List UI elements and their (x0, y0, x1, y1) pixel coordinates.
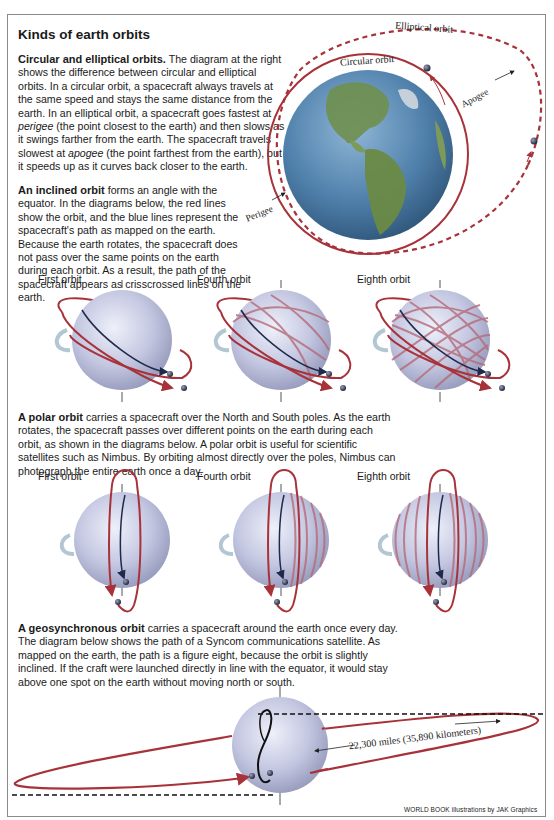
geosynchronous-diagram: 22,300 miles (35,890 kilometers) (0, 680, 554, 810)
polar-diagram-fourth (221, 470, 329, 611)
satellite-circular (424, 65, 431, 72)
geosynchronous-orbit-paragraph: A geosynchronous orbit carries a spacecr… (18, 622, 398, 689)
inclined-diagram-eighth (375, 280, 509, 402)
satellite-geo-1 (249, 773, 255, 779)
polar-diagram-first (62, 470, 170, 611)
satellite-elliptical (531, 138, 538, 145)
illustration-credit: WORLD BOOK illustrations by JAK Graphics (404, 806, 537, 813)
inclined-diagram-first (57, 280, 191, 402)
inclined-orbit-diagrams (0, 280, 554, 405)
polar-orbit-diagrams (0, 465, 554, 610)
label-apogee: Apogee (459, 87, 490, 110)
satellite-geo-2 (267, 770, 273, 776)
earth-globe (283, 70, 453, 240)
inclined-orbit-heading: An inclined orbit (18, 184, 105, 196)
geosynchronous-orbit-heading: A geosynchronous orbit (18, 622, 145, 634)
label-perigee: Perigee (244, 204, 274, 224)
polar-diagram-eighth (380, 470, 488, 611)
earth-sphere (232, 697, 328, 793)
label-elliptical-orbit: Elliptical orbit (395, 20, 454, 35)
apogee-pointer (495, 71, 514, 80)
inclined-diagram-fourth (216, 280, 350, 402)
polar-orbit-heading: A polar orbit (18, 411, 83, 423)
distance-label: 22,300 miles (35,890 kilometers) (348, 724, 482, 752)
